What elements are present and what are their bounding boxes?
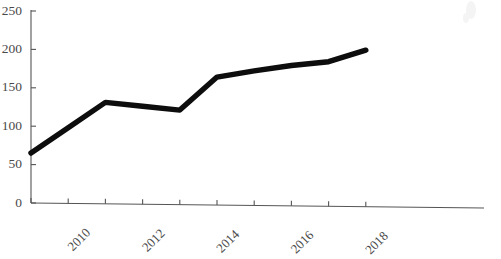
y-axis-tick-label: 250 [2, 3, 23, 18]
x-axis-tick-label: 2014 [213, 226, 242, 255]
x-axis-tick-label: 2016 [288, 227, 317, 256]
y-axis-tick-label: 0 [15, 195, 22, 210]
y-axis-tick-label: 50 [9, 156, 23, 171]
y-axis-tick-label: 200 [2, 41, 23, 56]
x-axis-line [31, 203, 484, 208]
data-series-line [31, 50, 366, 153]
x-axis-tick-label: 2018 [362, 228, 391, 257]
x-axis-tick-label: 2010 [64, 225, 93, 254]
scan-artifact [463, 1, 476, 23]
y-axis-tick-label: 150 [2, 79, 23, 94]
y-axis-tick-label: 100 [2, 118, 23, 133]
chart-canvas: 050100150200250 20102012201420162018 [0, 0, 501, 259]
line-chart-figure: 050100150200250 20102012201420162018 [0, 0, 501, 259]
x-axis-tick-label: 2012 [139, 226, 168, 255]
